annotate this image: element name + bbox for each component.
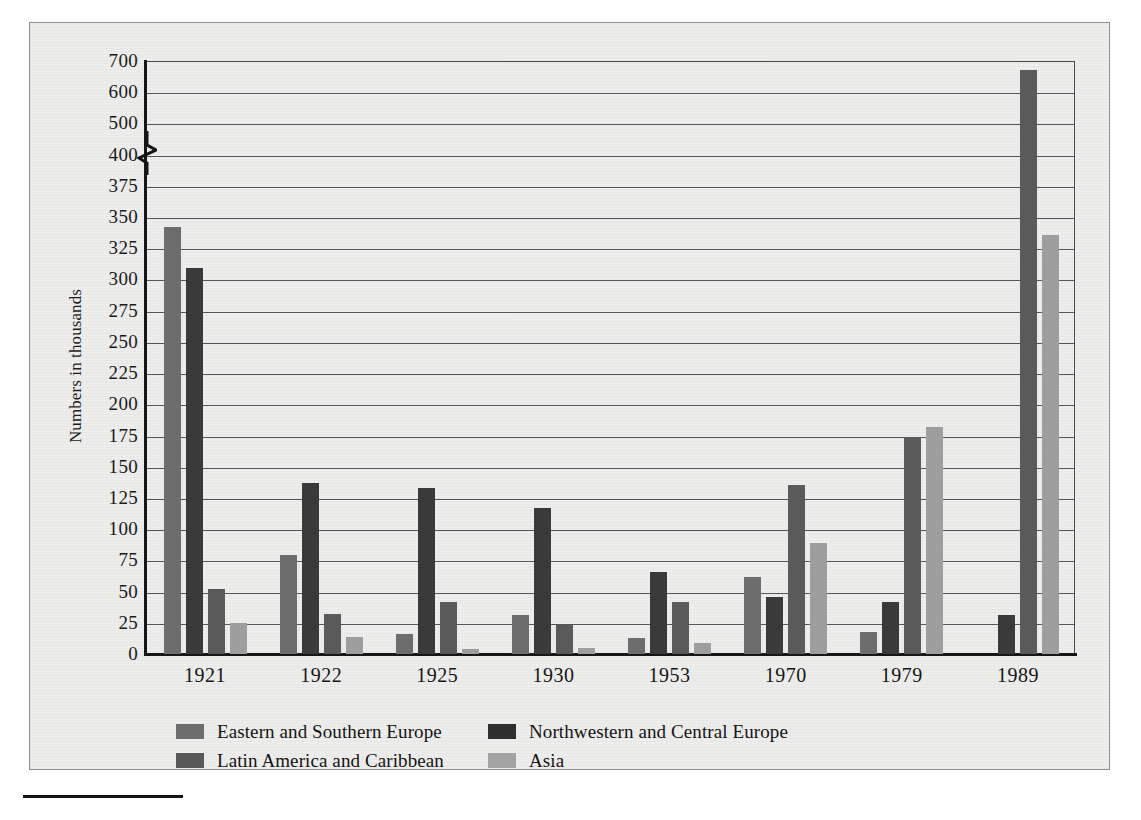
x-axis-tick-label: 1925 bbox=[377, 664, 497, 687]
y-axis-tick-labels: 7006005004003753503253002752502252001751… bbox=[40, 61, 138, 655]
y-axis-tick-label: 400 bbox=[52, 144, 138, 166]
bar[interactable] bbox=[534, 508, 551, 654]
bar[interactable] bbox=[882, 602, 899, 654]
legend-item-label: Northwestern and Central Europe bbox=[529, 721, 788, 743]
x-axis-tick-label: 1953 bbox=[610, 664, 730, 687]
bar-group bbox=[612, 61, 728, 654]
y-axis-tick-label: 225 bbox=[52, 362, 138, 384]
legend-swatch-icon bbox=[176, 753, 204, 768]
x-axis-tick-label: 1930 bbox=[493, 664, 613, 687]
bar[interactable] bbox=[744, 577, 761, 654]
x-axis-tick-label: 1979 bbox=[842, 664, 962, 687]
bars-layer bbox=[147, 61, 1076, 654]
bar-group bbox=[728, 61, 844, 654]
bar-group bbox=[147, 61, 263, 654]
bar[interactable] bbox=[462, 649, 479, 654]
y-axis-tick-label: 25 bbox=[52, 612, 138, 634]
legend-item-asia[interactable]: Asia bbox=[488, 750, 564, 772]
bar[interactable] bbox=[628, 638, 645, 654]
legend-row: Eastern and Southern Europe Northwestern… bbox=[176, 717, 816, 746]
bar[interactable] bbox=[926, 427, 943, 654]
bar[interactable] bbox=[396, 634, 413, 654]
y-axis-tick-label: 275 bbox=[52, 300, 138, 322]
x-axis-tick-label: 1970 bbox=[726, 664, 846, 687]
legend-item-label: Eastern and Southern Europe bbox=[217, 721, 442, 743]
bar[interactable] bbox=[904, 437, 921, 654]
legend-swatch-icon bbox=[488, 724, 516, 739]
legend-item-latin-america-caribbean[interactable]: Latin America and Caribbean bbox=[176, 750, 488, 772]
bar[interactable] bbox=[694, 643, 711, 654]
footer-rule bbox=[23, 795, 183, 798]
y-axis-tick-label: 350 bbox=[52, 206, 138, 228]
y-axis-tick-label: 375 bbox=[52, 175, 138, 197]
bar[interactable] bbox=[672, 602, 689, 654]
bar[interactable] bbox=[208, 589, 225, 654]
bar[interactable] bbox=[650, 572, 667, 654]
y-axis-tick-label: 200 bbox=[52, 393, 138, 415]
bar[interactable] bbox=[440, 602, 457, 654]
bar[interactable] bbox=[230, 623, 247, 654]
bar[interactable] bbox=[280, 555, 297, 654]
y-axis-tick-label: 100 bbox=[52, 518, 138, 540]
y-axis-tick-label: 125 bbox=[52, 487, 138, 509]
y-axis-tick-label: 600 bbox=[52, 81, 138, 103]
legend-item-northwestern-central-europe[interactable]: Northwestern and Central Europe bbox=[488, 721, 788, 743]
bar[interactable] bbox=[512, 615, 529, 654]
x-axis-tick-label: 1921 bbox=[145, 664, 265, 687]
bar[interactable] bbox=[346, 637, 363, 654]
bar-group bbox=[379, 61, 495, 654]
x-axis-tick-labels: 19211922192519301953197019791989 bbox=[147, 664, 1076, 694]
bar[interactable] bbox=[766, 597, 783, 654]
bar-group bbox=[960, 61, 1076, 654]
bar-group bbox=[495, 61, 611, 654]
bar[interactable] bbox=[324, 614, 341, 654]
legend-item-label: Asia bbox=[529, 750, 564, 772]
x-axis-tick-label: 1989 bbox=[958, 664, 1078, 687]
y-axis-tick-label: 150 bbox=[52, 456, 138, 478]
legend-item-label: Latin America and Caribbean bbox=[217, 750, 444, 772]
bar[interactable] bbox=[186, 268, 203, 654]
bar[interactable] bbox=[164, 227, 181, 654]
y-axis-tick-label: 0 bbox=[52, 643, 138, 665]
y-axis-tick-label: 250 bbox=[52, 331, 138, 353]
y-axis-tick-label: 175 bbox=[52, 425, 138, 447]
y-axis-tick-label: 75 bbox=[52, 549, 138, 571]
y-axis-tick-label: 700 bbox=[52, 50, 138, 72]
bar[interactable] bbox=[860, 632, 877, 654]
y-axis-tick-label: 50 bbox=[52, 581, 138, 603]
figure-frame: Numbers in thousands 7006005004003753503… bbox=[29, 22, 1110, 770]
bar[interactable] bbox=[556, 625, 573, 654]
bar-group bbox=[844, 61, 960, 654]
legend-swatch-icon bbox=[488, 753, 516, 768]
bar[interactable] bbox=[1042, 235, 1059, 654]
bar[interactable] bbox=[578, 648, 595, 654]
y-axis-tick-label: 325 bbox=[52, 237, 138, 259]
bar[interactable] bbox=[998, 615, 1015, 654]
bar[interactable] bbox=[302, 483, 319, 654]
bar[interactable] bbox=[810, 543, 827, 654]
legend-row: Latin America and Caribbean Asia bbox=[176, 746, 816, 775]
bar[interactable] bbox=[788, 485, 805, 654]
legend-swatch-icon bbox=[176, 724, 204, 739]
chart-legend: Eastern and Southern Europe Northwestern… bbox=[176, 717, 816, 775]
bar[interactable] bbox=[418, 488, 435, 654]
y-axis-tick-label: 500 bbox=[52, 112, 138, 134]
bar-group bbox=[263, 61, 379, 654]
legend-item-eastern-southern-europe[interactable]: Eastern and Southern Europe bbox=[176, 721, 488, 743]
bar[interactable] bbox=[1020, 70, 1037, 654]
y-axis-tick-label: 300 bbox=[52, 268, 138, 290]
x-axis-tick-label: 1922 bbox=[261, 664, 381, 687]
